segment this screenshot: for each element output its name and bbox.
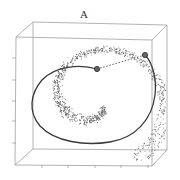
marker-point-2 bbox=[142, 52, 147, 57]
swiss-roll-3d-scatter-plot bbox=[0, 0, 180, 180]
scatter-points bbox=[53, 46, 166, 161]
marker-point-1 bbox=[94, 66, 99, 71]
geodesic-curve bbox=[32, 55, 156, 143]
